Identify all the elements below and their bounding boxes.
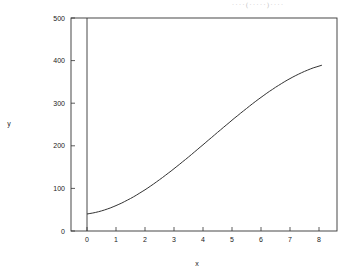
x-tick-label: 3 [172,236,176,243]
x-tick-label: 4 [201,236,205,243]
series-line [87,65,322,214]
y-tick-label: 0 [61,228,65,235]
x-tick-label: 5 [230,236,234,243]
y-axis: 0100200300400500 [53,15,75,235]
plot-frame [71,18,337,231]
x-tick-label: 6 [259,236,263,243]
x-tick-label: 1 [114,236,118,243]
y-axis-label: y [7,120,11,128]
y-tick-label: 400 [53,57,65,64]
x-tick-label: 2 [143,236,147,243]
line-chart: · · · · ( · · · · · ) · · · · 0100200300… [0,0,352,276]
data-series [87,65,322,214]
plot-border [71,18,337,231]
y-tick-label: 100 [53,185,65,192]
x-tick-label: 7 [288,236,292,243]
y-tick-label: 500 [53,15,65,22]
x-tick-label: 0 [85,236,89,243]
x-axis: 012345678 [85,227,321,243]
header-fragment: · · · · ( · · · · · ) · · · · [232,2,283,9]
x-tick-label: 8 [317,236,321,243]
y-tick-label: 300 [53,100,65,107]
y-tick-label: 200 [53,142,65,149]
x-axis-label: x [195,260,199,267]
